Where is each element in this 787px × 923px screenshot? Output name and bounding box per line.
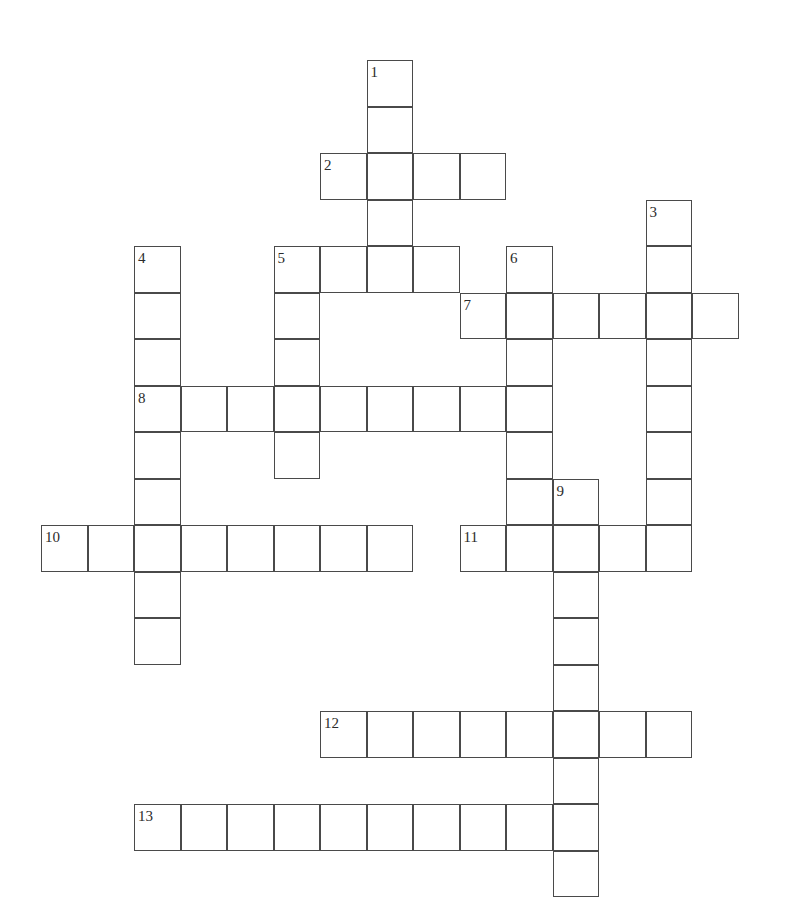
crossword-cell[interactable] (227, 525, 274, 572)
crossword-cell[interactable] (227, 804, 274, 851)
crossword-cell[interactable] (181, 804, 228, 851)
crossword-cell[interactable] (134, 479, 181, 526)
crossword-cell[interactable] (506, 293, 553, 340)
crossword-cell[interactable] (506, 246, 553, 293)
crossword-cell[interactable] (506, 339, 553, 386)
crossword-cell[interactable] (367, 107, 414, 154)
crossword-cell[interactable] (274, 339, 321, 386)
crossword-cell[interactable] (553, 804, 600, 851)
crossword-cell[interactable] (274, 432, 321, 479)
crossword-cell[interactable] (367, 60, 414, 107)
crossword-cell[interactable] (599, 293, 646, 340)
crossword-cell[interactable] (367, 246, 414, 293)
crossword-cell[interactable] (460, 711, 507, 758)
crossword-cell[interactable] (134, 572, 181, 619)
crossword-cell[interactable] (460, 293, 507, 340)
crossword-cell[interactable] (134, 246, 181, 293)
crossword-cell[interactable] (413, 153, 460, 200)
crossword-cell[interactable] (692, 293, 739, 340)
crossword-cell[interactable] (274, 804, 321, 851)
crossword-cell[interactable] (646, 200, 693, 247)
crossword-cell[interactable] (367, 804, 414, 851)
crossword-cell[interactable] (227, 386, 274, 433)
crossword-cell[interactable] (553, 293, 600, 340)
crossword-cell[interactable] (553, 665, 600, 712)
crossword-cell[interactable] (181, 386, 228, 433)
crossword-cell[interactable] (320, 246, 367, 293)
crossword-cell[interactable] (134, 339, 181, 386)
crossword-cell[interactable] (646, 386, 693, 433)
crossword-cell[interactable] (506, 386, 553, 433)
crossword-cell[interactable] (367, 153, 414, 200)
crossword-cell[interactable] (413, 711, 460, 758)
crossword-cell[interactable] (134, 386, 181, 433)
crossword-cell[interactable] (367, 711, 414, 758)
crossword-cell[interactable] (274, 386, 321, 433)
crossword-cell[interactable] (320, 804, 367, 851)
crossword-cell[interactable] (88, 525, 135, 572)
crossword-cell[interactable] (460, 386, 507, 433)
crossword-cell[interactable] (320, 153, 367, 200)
crossword-cell[interactable] (367, 386, 414, 433)
crossword-cell[interactable] (460, 804, 507, 851)
crossword-cell[interactable] (274, 293, 321, 340)
crossword-cell[interactable] (553, 711, 600, 758)
crossword-cell[interactable] (320, 525, 367, 572)
crossword-cell[interactable] (134, 804, 181, 851)
crossword-cell[interactable] (274, 246, 321, 293)
crossword-cell[interactable] (134, 525, 181, 572)
crossword-cell[interactable] (181, 525, 228, 572)
crossword-cell[interactable] (506, 711, 553, 758)
crossword-cell[interactable] (134, 432, 181, 479)
crossword-cell[interactable] (646, 525, 693, 572)
crossword-cell[interactable] (646, 432, 693, 479)
crossword-cell[interactable] (646, 246, 693, 293)
crossword-cell[interactable] (320, 711, 367, 758)
crossword-grid[interactable]: 12345678910111213 (0, 0, 787, 923)
crossword-cell[interactable] (646, 711, 693, 758)
crossword-cell[interactable] (646, 293, 693, 340)
crossword-cell[interactable] (553, 525, 600, 572)
crossword-cell[interactable] (413, 246, 460, 293)
crossword-cell[interactable] (506, 479, 553, 526)
crossword-puzzle: 12345678910111213 (0, 0, 787, 923)
crossword-cell[interactable] (553, 618, 600, 665)
crossword-cell[interactable] (506, 804, 553, 851)
crossword-cell[interactable] (553, 572, 600, 619)
crossword-cell[interactable] (134, 618, 181, 665)
crossword-cell[interactable] (599, 525, 646, 572)
crossword-cell[interactable] (460, 525, 507, 572)
crossword-cell[interactable] (320, 386, 367, 433)
crossword-cell[interactable] (413, 386, 460, 433)
crossword-cell[interactable] (599, 711, 646, 758)
crossword-cell[interactable] (367, 525, 414, 572)
crossword-cell[interactable] (646, 339, 693, 386)
crossword-cell[interactable] (134, 293, 181, 340)
crossword-cell[interactable] (553, 758, 600, 805)
crossword-cell[interactable] (413, 804, 460, 851)
crossword-cell[interactable] (506, 525, 553, 572)
crossword-cell[interactable] (367, 200, 414, 247)
crossword-cell[interactable] (460, 153, 507, 200)
crossword-cell[interactable] (41, 525, 88, 572)
crossword-cell[interactable] (553, 851, 600, 898)
crossword-cell[interactable] (506, 432, 553, 479)
crossword-cell[interactable] (646, 479, 693, 526)
crossword-cell[interactable] (274, 525, 321, 572)
crossword-cell[interactable] (553, 479, 600, 526)
